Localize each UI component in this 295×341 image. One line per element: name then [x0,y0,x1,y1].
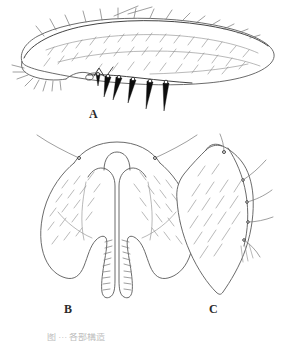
spine-6 [163,83,169,111]
panel-label-a: A [89,108,98,120]
spine-socket-6 [164,80,168,84]
figure-c-outline [177,144,253,294]
figure-caption: 图 ··· 各部構造 [47,333,247,341]
figure-b-median-notch [104,152,130,170]
spine-socket-2 [106,74,109,77]
panel-label-c: C [209,303,218,315]
figure-a-group [12,6,274,111]
spine-socket-5 [148,79,152,83]
spine-socket-3 [117,75,120,78]
spine-5 [146,81,153,109]
spine-socket-4 [131,77,134,80]
figure-b-right-seta [155,135,197,158]
spine-2 [104,76,111,97]
figure-c-group [177,134,273,294]
figure-b-left-seta [37,135,79,158]
figure-b-dorsal-arch [74,142,160,163]
figure-plate: .ln { fill:none; stroke:#5a5a5a; stroke-… [0,0,295,341]
figure-a-outline [21,18,274,85]
illustration-canvas: .ln { fill:none; stroke:#5a5a5a; stroke-… [0,0,295,341]
figure-b-group [37,135,197,298]
spine-socket-1 [97,73,100,76]
panel-label-b: B [64,303,72,315]
